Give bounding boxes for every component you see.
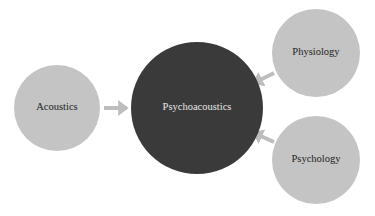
node-physiology-label: Physiology xyxy=(292,46,340,57)
node-psychoacoustics: Psychoacoustics xyxy=(131,42,263,174)
node-acoustics-label: Acoustics xyxy=(36,101,77,112)
node-acoustics: Acoustics xyxy=(14,65,100,151)
node-psychology-label: Psychology xyxy=(291,153,341,164)
node-psychoacoustics-label: Psychoacoustics xyxy=(163,101,232,112)
node-psychology: Psychology xyxy=(272,116,360,204)
diagram-canvas: Acoustics Psychoacoustics Physiology Psy… xyxy=(0,0,375,216)
node-physiology: Physiology xyxy=(272,9,360,97)
